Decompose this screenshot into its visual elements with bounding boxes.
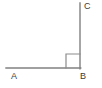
figure-strokes <box>6 3 81 69</box>
vertex-label-b: B <box>80 72 86 81</box>
right-angle-square <box>66 54 80 68</box>
geometry-figure: A B C <box>0 0 102 88</box>
vertex-label-c: C <box>84 2 91 11</box>
vertex-label-a: A <box>11 72 17 81</box>
